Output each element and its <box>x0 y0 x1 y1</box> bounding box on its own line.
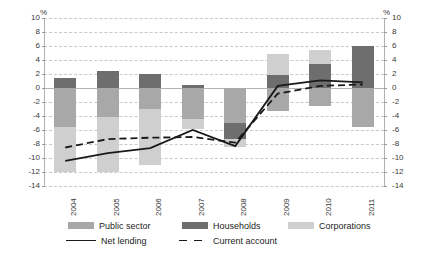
legend-item-public-sector[interactable]: Public sector <box>68 218 151 233</box>
tick-mark <box>384 46 387 47</box>
x-tick-2010: 2010 <box>324 198 333 216</box>
legend-label-current-account: Current account <box>213 236 277 246</box>
y-tick-right--8: -8 <box>392 140 414 148</box>
line-net-lending <box>65 80 363 161</box>
x-tick-2007: 2007 <box>197 198 206 216</box>
legend-item-net-lending[interactable]: Net lending <box>66 233 147 248</box>
y-tick-right-10: 10 <box>392 14 414 22</box>
x-tick-2004: 2004 <box>69 198 78 216</box>
y-tick-right-8: 8 <box>392 28 414 36</box>
tick-mark <box>384 172 387 173</box>
y-tick-left--12: -12 <box>18 168 40 176</box>
y-axis-unit-left: % <box>40 8 47 17</box>
tick-mark <box>384 144 387 145</box>
tick-mark <box>384 130 387 131</box>
tick-mark <box>42 172 45 173</box>
x-tick-2011: 2011 <box>367 199 376 216</box>
legend-item-corporations[interactable]: Corporations <box>288 218 371 233</box>
tick-mark <box>384 186 387 187</box>
x-tick-2008: 2008 <box>239 198 248 216</box>
tick-mark <box>42 130 45 131</box>
tick-mark <box>42 46 45 47</box>
dashed-line-icon <box>178 237 208 244</box>
tick-mark <box>42 88 45 89</box>
tick-mark <box>384 18 387 19</box>
legend-row-bars: Public sector Households Corporations <box>0 218 432 233</box>
tick-mark <box>384 102 387 103</box>
legend-label-households: Households <box>213 221 261 231</box>
chart-legend: Public sector Households Corporations Ne… <box>0 218 432 248</box>
y-tick-right--12: -12 <box>392 168 414 176</box>
y-tick-right--10: -10 <box>392 154 414 162</box>
y-tick-left-6: 6 <box>18 42 40 50</box>
households-swatch-icon <box>182 222 208 229</box>
tick-mark <box>42 144 45 145</box>
y-tick-right-2: 2 <box>392 70 414 78</box>
tick-mark <box>42 18 45 19</box>
y-tick-left-8: 8 <box>18 28 40 36</box>
solid-line-icon <box>66 237 96 244</box>
x-tick-2009: 2009 <box>282 198 291 216</box>
tick-mark <box>42 74 45 75</box>
legend-label-public-sector: Public sector <box>99 221 151 231</box>
tick-mark <box>384 74 387 75</box>
x-tick-2006: 2006 <box>154 198 163 216</box>
y-tick-right-0: 0 <box>392 84 414 92</box>
y-tick-right--2: -2 <box>392 98 414 106</box>
y-tick-left--8: -8 <box>18 140 40 148</box>
tick-mark <box>42 102 45 103</box>
y-tick-right--6: -6 <box>392 126 414 134</box>
tick-mark <box>384 60 387 61</box>
y-tick-right--14: -14 <box>392 182 414 190</box>
chart-container: % % 10108866442200-2-2-4-4-6-6-8-8-10-10… <box>0 0 432 266</box>
tick-mark <box>42 186 45 187</box>
y-tick-right--4: -4 <box>392 112 414 120</box>
y-tick-left-10: 10 <box>18 14 40 22</box>
y-tick-left--6: -6 <box>18 126 40 134</box>
tick-mark <box>384 88 387 89</box>
tick-mark <box>42 60 45 61</box>
y-tick-right-6: 6 <box>392 42 414 50</box>
tick-mark <box>42 116 45 117</box>
y-tick-left--14: -14 <box>18 182 40 190</box>
tick-mark <box>42 158 45 159</box>
tick-mark <box>384 32 387 33</box>
legend-item-current-account[interactable]: Current account <box>178 233 277 248</box>
legend-item-households[interactable]: Households <box>182 218 261 233</box>
x-tick-2005: 2005 <box>112 198 121 216</box>
y-tick-left-0: 0 <box>18 84 40 92</box>
line-series <box>44 18 384 186</box>
y-tick-right-4: 4 <box>392 56 414 64</box>
y-axis-unit-right: % <box>383 8 390 17</box>
y-tick-left--10: -10 <box>18 154 40 162</box>
legend-label-net-lending: Net lending <box>101 236 147 246</box>
y-tick-left--4: -4 <box>18 112 40 120</box>
legend-label-corporations: Corporations <box>319 221 371 231</box>
tick-mark <box>384 158 387 159</box>
tick-mark <box>42 32 45 33</box>
y-tick-left-2: 2 <box>18 70 40 78</box>
gridline--14 <box>44 186 384 187</box>
legend-row-lines: Net lending Current account <box>0 233 432 248</box>
public-sector-swatch-icon <box>68 222 94 229</box>
tick-mark <box>384 116 387 117</box>
y-tick-left--2: -2 <box>18 98 40 106</box>
plot-area <box>44 18 384 186</box>
y-tick-left-4: 4 <box>18 56 40 64</box>
corporations-swatch-icon <box>288 222 314 229</box>
